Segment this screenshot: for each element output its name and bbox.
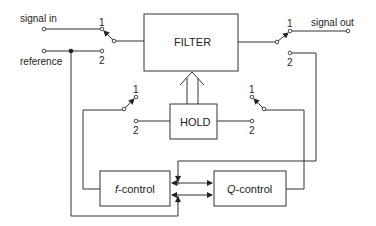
output-switch-pos2: 2 — [287, 58, 293, 68]
q-control-label: Q-control — [227, 184, 272, 195]
signal-out-label: signal out — [311, 18, 354, 28]
reference-terminal — [42, 49, 46, 53]
hold-to-filter-arrow — [180, 72, 204, 104]
signal-in-label: signal in — [20, 14, 57, 24]
f-control-label: f-control — [115, 184, 155, 195]
left-hold-switch-pos1: 1 — [133, 85, 139, 95]
input-switch-arm — [104, 31, 113, 40]
filter-label: FILTER — [174, 37, 211, 48]
right-hold-switch-pos2: 2 — [249, 126, 255, 136]
input-switch-pos2: 2 — [99, 56, 105, 66]
output-switch-arm — [278, 33, 288, 41]
reference-junction-dot — [69, 49, 74, 54]
f-control-output-wire — [83, 110, 123, 189]
hold-label: HOLD — [180, 117, 211, 128]
reference-label: reference — [20, 57, 62, 67]
right-hold-switch-pos1: 1 — [249, 85, 255, 95]
q-control-output-wire — [265, 110, 304, 189]
input-switch-pos1: 1 — [99, 18, 105, 28]
signal-in-terminal — [42, 27, 46, 31]
left-hold-switch-pos2: 2 — [133, 126, 139, 136]
output-switch-pos1: 1 — [287, 19, 293, 29]
signal-out-terminal — [346, 29, 350, 33]
filter-control-diagram — [0, 0, 376, 226]
